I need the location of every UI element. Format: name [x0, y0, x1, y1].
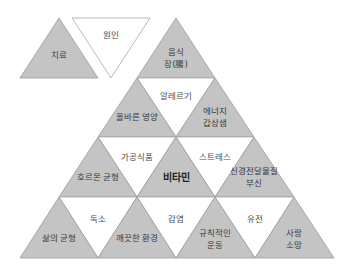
label-love: 사랑 [286, 228, 302, 238]
label-infection: 감염 [168, 214, 184, 224]
label-clean-environment: 깨끗한 환경 [116, 233, 159, 243]
label-life-balance: 삶의 균형 [42, 233, 77, 243]
health-pyramid-diagram: 치료 원인 음식 장(腸) 알레르기 올바른 영양 에너지 갑상샘 가공식품 스… [0, 0, 350, 276]
label-hormone-balance: 호르몬 균형 [77, 172, 120, 182]
label-thyroid: 갑상샘 [203, 118, 227, 128]
label-regular: 규칙적인 [199, 228, 231, 238]
label-gut: 장(腸) [164, 59, 188, 69]
label-stress: 스트레스 [199, 152, 231, 162]
label-treatment: 치료 [51, 50, 67, 60]
label-vitamin: 비타민 [163, 171, 190, 183]
label-adrenal: 부신 [246, 178, 262, 188]
label-neurotransmitter: 신경전달물질 [230, 166, 278, 176]
label-processed-food: 가공식품 [121, 152, 153, 162]
label-proper-nutrition: 올바른 영양 [116, 112, 159, 122]
label-energy: 에너지 [203, 106, 227, 116]
label-food: 음식 [168, 47, 184, 57]
label-hope: 소망 [286, 240, 302, 250]
label-genetics: 유전 [247, 214, 263, 224]
label-toxin: 독소 [90, 214, 106, 224]
label-exercise: 운동 [207, 240, 223, 250]
label-cause: 원인 [103, 30, 119, 40]
label-allergy: 알레르기 [160, 91, 192, 101]
